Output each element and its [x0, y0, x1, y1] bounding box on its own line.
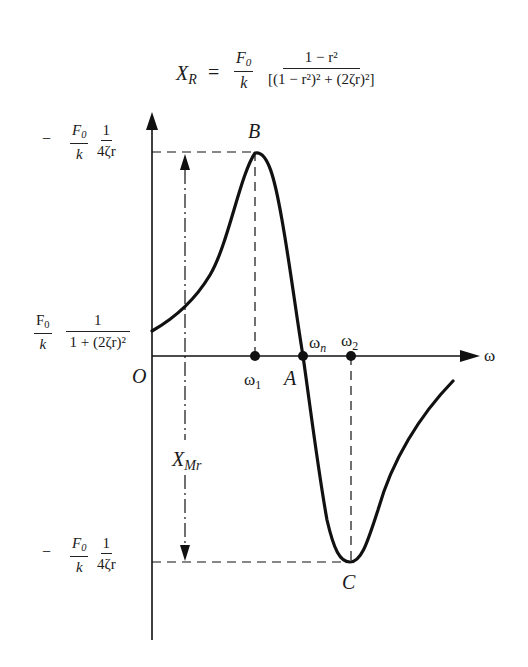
- omegan-label: ωn: [309, 334, 326, 354]
- origin-label: O: [132, 366, 146, 386]
- point-c-label: C: [342, 572, 355, 592]
- omega1-label: ω1: [244, 371, 261, 391]
- span-arrow-xmr: [180, 154, 190, 561]
- point-a-label: A: [284, 368, 296, 388]
- span-arrow-down-icon: [180, 545, 190, 561]
- y-axis: [146, 112, 158, 640]
- omega2-label: ω2: [341, 332, 358, 352]
- omega1-dot: [250, 351, 260, 361]
- x-axis-arrow-icon: [460, 350, 480, 362]
- formula-equals: =: [208, 62, 219, 82]
- point-a-dot: [298, 351, 308, 361]
- formula-lhs: XR: [176, 63, 197, 87]
- formula-force-ratio: F0 k: [234, 50, 253, 91]
- x-axis-label-omega: ω: [484, 347, 495, 364]
- formula-dynamic-ratio: 1 − r² [(1 − r²)² + (2ζr)²]: [268, 50, 375, 87]
- span-arrow-up-icon: [180, 154, 190, 170]
- y-axis-arrow-icon: [146, 112, 158, 130]
- span-label-xmr: XMr: [170, 449, 203, 473]
- point-b-label: B: [248, 121, 260, 141]
